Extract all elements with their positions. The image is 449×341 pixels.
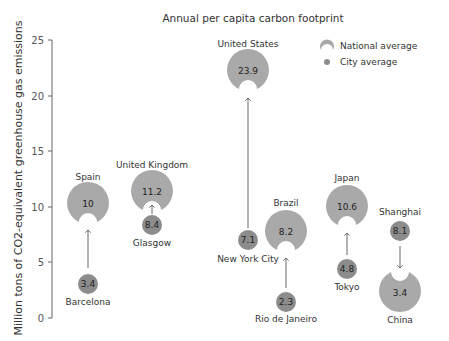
- national-average-icon: [320, 39, 334, 50]
- svg-text:China: China: [387, 315, 413, 325]
- svg-text:Spain: Spain: [75, 172, 100, 182]
- pair-uk: United Kingdom 11.2 8.4 Glasgow: [116, 160, 188, 248]
- pair-spain: Spain 10 3.4 Barcelona: [66, 172, 111, 307]
- svg-text:Brazil: Brazil: [273, 198, 298, 208]
- svg-text:7.1: 7.1: [241, 235, 255, 245]
- svg-text:11.2: 11.2: [142, 187, 162, 197]
- svg-text:Rio de Janeiro: Rio de Janeiro: [255, 314, 318, 324]
- chart: Annual per capita carbon footprint 0 5 1…: [0, 0, 449, 341]
- y-tick: 0: [38, 313, 44, 324]
- svg-text:8.4: 8.4: [145, 220, 160, 230]
- svg-text:Glasgow: Glasgow: [133, 238, 171, 248]
- svg-text:Shanghai: Shanghai: [379, 207, 421, 217]
- y-tick: 5: [38, 257, 44, 268]
- svg-text:Tokyo: Tokyo: [333, 282, 360, 292]
- svg-text:2.3: 2.3: [279, 297, 293, 307]
- y-tick: 15: [31, 146, 44, 157]
- y-axis-label: Million tons of CO2-equivalent greenhous…: [12, 20, 25, 335]
- svg-text:Japan: Japan: [333, 173, 359, 183]
- city-average-icon: [324, 59, 330, 65]
- legend-national: National average: [340, 41, 418, 51]
- legend-city: City average: [340, 57, 398, 67]
- legend: National average City average: [320, 39, 418, 67]
- svg-text:23.9: 23.9: [238, 66, 258, 76]
- svg-text:3.4: 3.4: [393, 288, 408, 298]
- svg-text:10: 10: [82, 199, 94, 209]
- svg-text:8.2: 8.2: [279, 227, 293, 237]
- pair-china: Shanghai 8.1 3.4 China: [379, 207, 421, 325]
- svg-text:10.6: 10.6: [337, 202, 357, 212]
- svg-text:New York City: New York City: [217, 254, 279, 264]
- svg-text:United Kingdom: United Kingdom: [116, 160, 188, 170]
- y-tick: 10: [31, 202, 44, 213]
- y-tick: 20: [31, 91, 44, 102]
- svg-text:Barcelona: Barcelona: [66, 297, 111, 307]
- chart-title: Annual per capita carbon footprint: [162, 12, 343, 24]
- svg-text:4.8: 4.8: [340, 264, 355, 274]
- y-tick: 25: [31, 35, 44, 46]
- svg-text:8.1: 8.1: [393, 226, 407, 236]
- y-axis: 0 5 10 15 20 25 Million tons of CO2-equi…: [12, 20, 52, 335]
- svg-text:United States: United States: [218, 39, 279, 49]
- svg-text:3.4: 3.4: [81, 279, 96, 289]
- pair-japan: Japan 10.6 4.8 Tokyo: [326, 173, 368, 292]
